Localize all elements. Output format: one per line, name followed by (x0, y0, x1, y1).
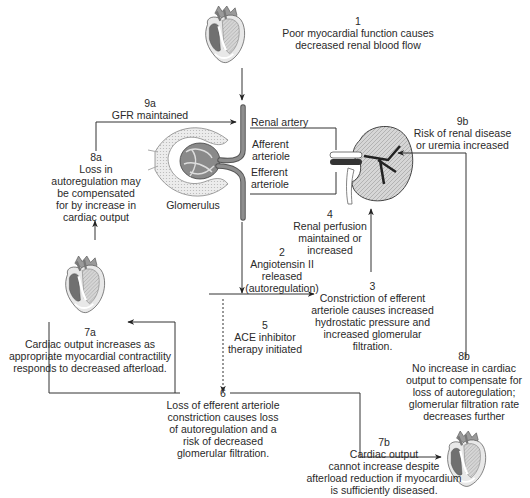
node-9b-line-2: or uremia increased (400, 139, 525, 151)
node-7a-number: 7a (2, 326, 178, 338)
label-glomerulus: Glomerulus (158, 199, 228, 211)
node-9b-line-1: Risk of renal disease (400, 127, 525, 139)
node-8a-number: 8a (46, 151, 146, 163)
node-8a-line-2: autoregulation may (46, 175, 146, 187)
label-afferent-arteriole: Afferent arteriole (252, 138, 290, 162)
node-8b-line-4: glomerular filtration rate (398, 398, 530, 410)
node-1-number: 1 (263, 15, 453, 27)
node-8a-line-5: cardiac output (46, 211, 146, 223)
node-4-line-2: maintained or (290, 232, 370, 244)
node-5-line-2: therapy initiated (224, 343, 306, 355)
node-9a-line-1: GFR maintained (100, 109, 200, 121)
node-7b-line-2: cannot increase despite (300, 460, 468, 472)
label-renal-artery: Renal artery (251, 116, 308, 128)
heart-left-illustration (66, 256, 105, 313)
node-3-line-2: arteriole causes increased (305, 304, 440, 316)
node-8a-line-3: be compensated (46, 187, 146, 199)
node-1: 1 Poor myocardial function causes decrea… (263, 15, 453, 51)
node-7b-line-3: afterload reduction if myocardium (300, 472, 468, 484)
node-5-line-1: ACE inhibitor (224, 331, 306, 343)
node-7b-number: 7b (300, 436, 468, 448)
label-efferent-arteriole: Efferent arteriole (251, 166, 289, 190)
node-6: 6 Loss of efferent arteriole constrictio… (155, 387, 291, 459)
node-5-number: 5 (224, 319, 306, 331)
node-7b: 7b Cardiac output cannot increase despit… (300, 436, 468, 496)
node-8b-line-2: output to compensate for (398, 374, 530, 386)
node-7a: 7a Cardiac output increases as appropria… (2, 326, 178, 374)
node-8a-line-4: for by increase in (46, 199, 146, 211)
node-3-line-3: hydrostatic pressure and (305, 316, 440, 328)
node-8b-line-5: decreases further (398, 410, 530, 422)
node-6-line-3: of autoregulation and a (155, 423, 291, 435)
node-8b-number: 8b (398, 350, 530, 362)
node-2-line-1: Angiotensin II (240, 258, 324, 270)
node-6-number: 6 (155, 387, 291, 399)
heart-top-illustration (206, 6, 245, 63)
node-1-line-1: Poor myocardial function causes (263, 27, 453, 39)
node-7a-line-3: responds to decreased afterload. (2, 362, 178, 374)
node-9b: 9b Risk of renal disease or uremia incre… (400, 115, 525, 151)
node-7a-line-2: appropriate myocardial contractility (2, 350, 178, 362)
node-8b-line-1: No increase in cardiac (398, 362, 530, 374)
node-9b-number: 9b (400, 115, 525, 127)
node-1-line-2: decreased renal blood flow (263, 39, 453, 51)
node-5: 5 ACE inhibitor therapy initiated (224, 319, 306, 355)
node-2-number: 2 (240, 246, 324, 258)
node-3: 3 Constriction of efferent arteriole cau… (305, 280, 440, 352)
node-6-line-4: risk of decreased (155, 435, 291, 447)
node-8a: 8a Loss in autoregulation may be compens… (46, 151, 146, 223)
node-6-line-1: Loss of efferent arteriole (155, 399, 291, 411)
node-4-line-1: Renal perfusion (290, 220, 370, 232)
node-7b-line-4: is sufficiently diseased. (300, 484, 468, 496)
node-9a-number: 9a (100, 97, 200, 109)
node-6-line-2: constriction causes loss (155, 411, 291, 423)
node-8b: 8b No increase in cardiac output to comp… (398, 350, 530, 422)
node-7b-line-1: Cardiac output (300, 448, 468, 460)
node-3-number: 3 (305, 280, 440, 292)
node-8b-line-3: loss of autoregulation; (398, 386, 530, 398)
node-3-line-1: Constriction of efferent (305, 292, 440, 304)
node-4-number: 4 (290, 208, 370, 220)
node-8a-line-1: Loss in (46, 163, 146, 175)
node-9a: 9a GFR maintained (100, 97, 200, 121)
node-3-line-4: increased glomerular (305, 328, 440, 340)
node-6-line-5: glomerular filtration. (155, 447, 291, 459)
node-7a-line-1: Cardiac output increases as (2, 338, 178, 350)
